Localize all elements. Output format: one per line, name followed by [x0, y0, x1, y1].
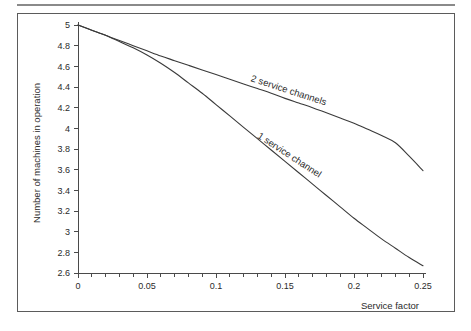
y-tick-label: 2.6: [57, 268, 70, 278]
y-tick-label: 4.8: [57, 41, 70, 51]
y-axis-tick-labels: 2.62.833.23.43.63.844.24.44.64.85: [57, 20, 70, 278]
x-tick-label: 0.2: [348, 281, 361, 291]
series-label-2: 1 service channel: [256, 130, 324, 179]
data-curve-2: [78, 25, 423, 266]
x-axis-title: Service factor: [361, 300, 419, 311]
series-inline-labels: 2 service channels1 service channel: [250, 73, 328, 180]
y-tick-label: 4: [65, 124, 70, 134]
x-tick-label: 0: [75, 281, 80, 291]
line-chart: 2.62.833.23.43.63.844.24.44.64.85 00.050…: [18, 14, 454, 311]
data-curve-1: [78, 25, 423, 171]
x-tick-label: 0.15: [276, 281, 294, 291]
y-tick-label: 2.8: [57, 248, 70, 258]
y-axis-title: Number of machines in operation: [31, 83, 42, 223]
y-tick-label: 3.6: [57, 165, 70, 175]
x-tick-label: 0.05: [138, 281, 156, 291]
data-series-curves: [78, 25, 423, 266]
x-tick-label: 0.25: [414, 281, 432, 291]
x-tick-label: 0.1: [210, 281, 223, 291]
chart-axes: [78, 22, 426, 273]
y-tick-label: 4.6: [57, 62, 70, 72]
y-tick-label: 3.8: [57, 144, 70, 154]
top-horizontal-rule: [17, 4, 455, 6]
y-tick-label: 3.4: [57, 186, 70, 196]
y-tick-label: 3: [65, 227, 70, 237]
y-tick-label: 4.4: [57, 82, 70, 92]
figure-page: 2.62.833.23.43.63.844.24.44.64.85 00.050…: [0, 0, 471, 331]
figure-frame: 2.62.833.23.43.63.844.24.44.64.85 00.050…: [17, 13, 455, 312]
y-tick-label: 3.2: [57, 206, 70, 216]
y-tick-label: 5: [65, 20, 70, 30]
x-axis-ticks: [78, 273, 423, 278]
y-tick-label: 4.2: [57, 103, 70, 113]
x-axis-tick-labels: 00.050.10.150.20.25: [75, 281, 431, 291]
y-axis-ticks: [74, 25, 78, 273]
x-axis-minor-ticks: [92, 273, 409, 277]
